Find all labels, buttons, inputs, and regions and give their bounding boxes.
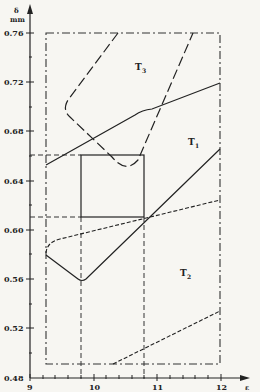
svg-text:2: 2 xyxy=(187,273,191,280)
shortdash-lower-line xyxy=(113,311,220,364)
x-axis-title: ε xyxy=(245,383,249,392)
x-tick-labels: 9 10 11 12 xyxy=(27,382,227,392)
guide-lines xyxy=(30,155,144,378)
x-axis-arrow-icon xyxy=(240,375,250,381)
svg-text:T: T xyxy=(188,137,195,147)
y-tick-label: 0.48 xyxy=(4,373,24,383)
chart: 0.76 0.72 0.68 0.64 0.60 0.56 0.52 0.48 … xyxy=(0,0,260,392)
svg-text:T: T xyxy=(135,62,142,72)
x-tick-label: 11 xyxy=(152,382,163,392)
svg-text:3: 3 xyxy=(142,67,146,74)
x-tick-label: 10 xyxy=(89,382,101,392)
y-axis-unit: mm xyxy=(10,15,25,24)
y-tick-label: 0.68 xyxy=(4,126,24,136)
y-axis-arrow-icon xyxy=(27,4,33,14)
y-tick-labels: 0.76 0.72 0.68 0.64 0.60 0.56 0.52 0.48 xyxy=(4,28,24,383)
x-tick-label: 9 xyxy=(27,382,33,392)
y-tick-label: 0.56 xyxy=(4,274,24,284)
region-label-t1: T 1 xyxy=(188,137,199,149)
y-tick-label: 0.64 xyxy=(4,176,24,186)
shortdash-middle-line xyxy=(46,200,220,253)
svg-text:1: 1 xyxy=(195,142,199,149)
region-label-t3: T 3 xyxy=(135,62,146,74)
y-tick-label: 0.72 xyxy=(4,77,23,87)
y-tick-label: 0.76 xyxy=(4,28,24,38)
t3-boundary-longdash xyxy=(65,33,193,166)
svg-text:T: T xyxy=(180,268,187,278)
y-axis-title: δ xyxy=(14,6,19,15)
x-tick-label: 12 xyxy=(216,382,227,392)
solid-v-curve xyxy=(46,149,220,281)
y-tick-label: 0.60 xyxy=(4,225,24,235)
outer-frame-dashdot xyxy=(46,33,220,364)
y-tick-label: 0.52 xyxy=(4,323,23,333)
region-label-t2: T 2 xyxy=(180,268,191,280)
solid-rectangle xyxy=(81,155,144,217)
